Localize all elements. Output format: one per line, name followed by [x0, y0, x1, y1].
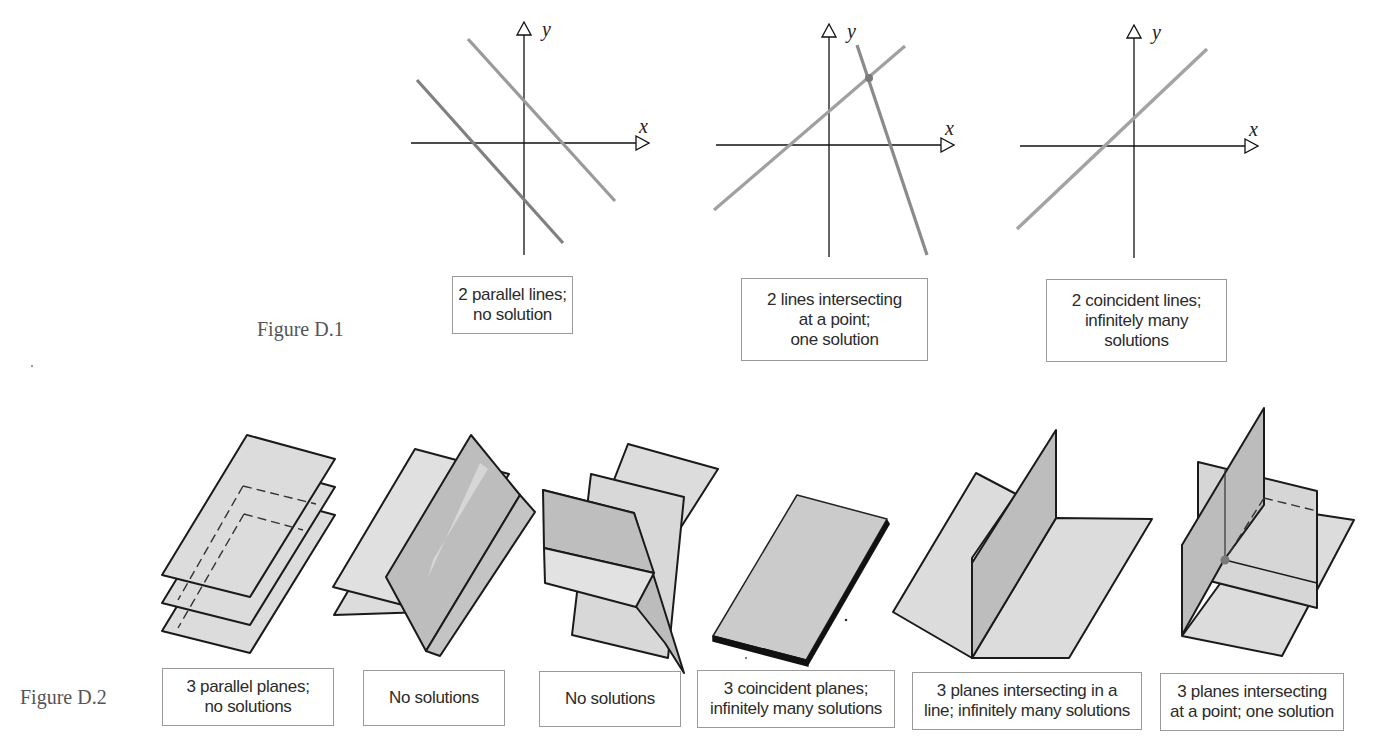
figure-d2-graphics: [0, 0, 1388, 753]
label-text: 3 planes intersecting in a line; infinit…: [924, 681, 1130, 721]
stray-dot: [745, 657, 747, 659]
figure-d2-caption: Figure D.2: [20, 686, 107, 709]
label-planes-intersecting-line: 3 planes intersecting in a line; infinit…: [912, 672, 1142, 730]
label-three-parallel-planes: 3 parallel planes; no solutions: [162, 668, 334, 726]
stray-dot: [845, 619, 848, 622]
label-planes-intersecting-point: 3 planes intersecting at a point; one so…: [1160, 673, 1344, 731]
label-no-solutions-b: No solutions: [539, 671, 681, 727]
label-text: No solutions: [389, 688, 479, 708]
intersection-point: [1221, 556, 1230, 565]
label-text: 3 parallel planes; no solutions: [186, 677, 309, 717]
drawing-no-solutions-b: [543, 444, 718, 673]
drawing-planes-intersecting-point: [1182, 408, 1354, 656]
drawing-no-solutions-a: [333, 435, 535, 656]
label-text: 3 coincident planes; infinitely many sol…: [710, 679, 882, 719]
drawing-planes-intersecting-line: [893, 430, 1152, 658]
label-no-solutions-a: No solutions: [363, 670, 505, 726]
label-three-coincident-planes: 3 coincident planes; infinitely many sol…: [697, 670, 895, 728]
drawing-three-coincident-planes: [713, 495, 890, 666]
drawing-three-parallel-planes: [162, 435, 335, 653]
label-text: No solutions: [565, 689, 655, 709]
label-text: 3 planes intersecting at a point; one so…: [1170, 682, 1334, 722]
